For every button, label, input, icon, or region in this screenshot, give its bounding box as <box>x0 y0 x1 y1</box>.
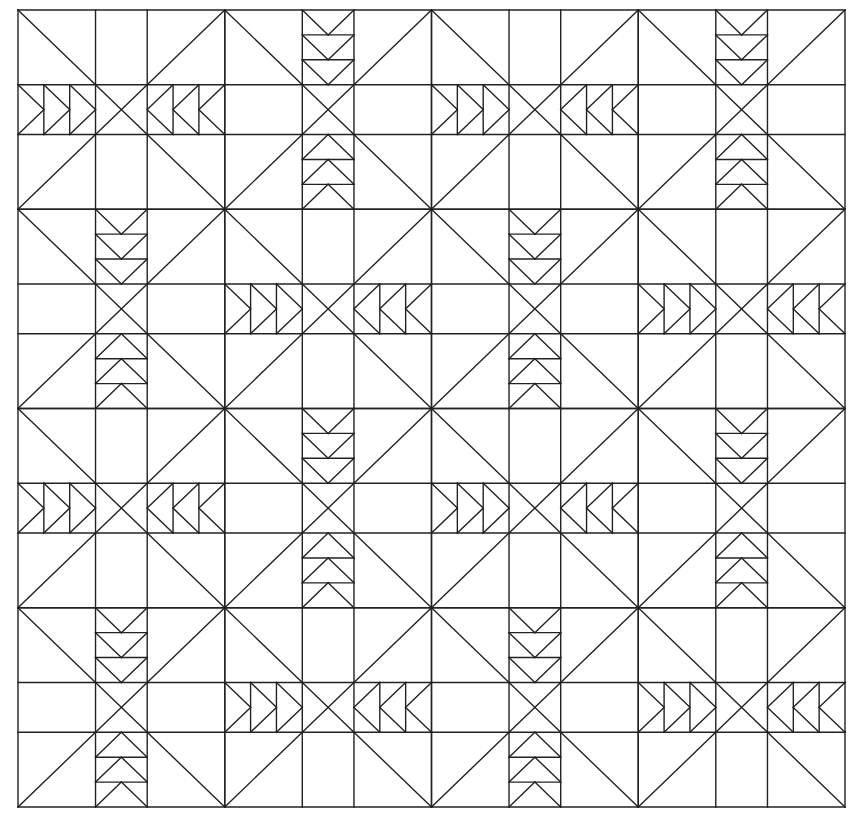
quilt-block-A <box>432 10 639 209</box>
quilt-block-A <box>18 409 225 608</box>
quilt-block-B <box>638 10 845 209</box>
quilt-block-B <box>18 209 225 408</box>
quilt-block-A <box>638 209 845 408</box>
quilt-diagram <box>0 0 854 828</box>
quilt-block-A <box>638 608 845 807</box>
quilt-block-A <box>225 608 432 807</box>
quilt-block-B <box>18 608 225 807</box>
quilt-block-A <box>18 10 225 209</box>
quilt-block-B <box>638 409 845 608</box>
quilt-block-B <box>432 608 639 807</box>
quilt-block-B <box>225 409 432 608</box>
quilt-block-A <box>225 209 432 408</box>
quilt-block-B <box>432 209 639 408</box>
quilt-block-B <box>225 10 432 209</box>
quilt-block-A <box>432 409 639 608</box>
